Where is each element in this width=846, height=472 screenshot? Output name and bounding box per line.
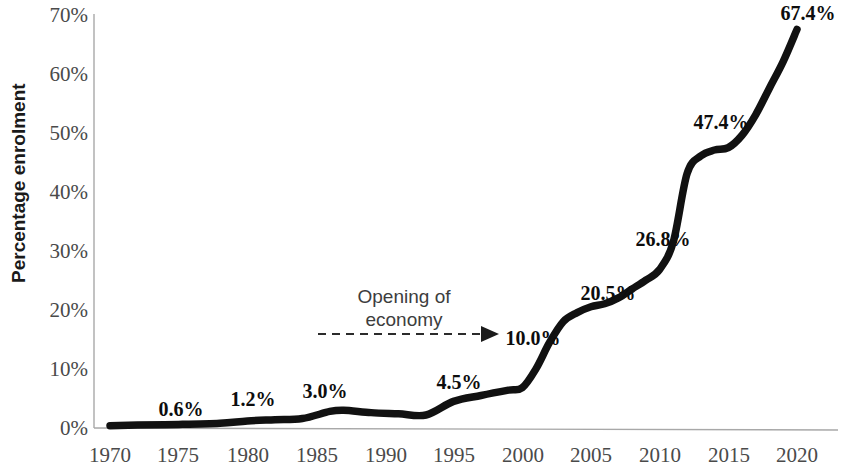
chart-container: Percentage enrolment 70% 60% 50% 40% 30%…: [0, 0, 846, 472]
data-label-3.0: 3.0%: [303, 380, 348, 402]
y-tick-20: 20%: [50, 298, 89, 322]
data-series-line: [110, 29, 797, 425]
data-point-labels: 0.6% 1.2% 3.0% 4.5% 10.0% 20.5% 26.8% 47…: [159, 2, 836, 420]
y-axis-title: Percentage enrolment: [8, 83, 29, 283]
y-tick-50: 50%: [50, 121, 89, 145]
data-label-1.2: 1.2%: [231, 388, 276, 410]
x-tick-1995: 1995: [433, 443, 475, 467]
y-axis-ticks: 70% 60% 50% 40% 30% 20% 10% 0%: [50, 3, 89, 440]
line-chart: Percentage enrolment 70% 60% 50% 40% 30%…: [0, 0, 846, 472]
y-tick-0: 0%: [60, 416, 88, 440]
x-tick-1990: 1990: [365, 443, 407, 467]
x-tick-1980: 1980: [227, 443, 269, 467]
annotation-line-2: economy: [365, 309, 443, 330]
x-tick-2020: 2020: [776, 443, 818, 467]
x-tick-1985: 1985: [296, 443, 338, 467]
annotation-arrow-head-icon: [481, 326, 499, 342]
x-tick-2000: 2000: [502, 443, 544, 467]
data-label-10.0: 10.0%: [506, 327, 561, 349]
y-tick-40: 40%: [50, 180, 89, 204]
annotation-line-1: Opening of: [358, 286, 452, 307]
x-tick-2015: 2015: [708, 443, 750, 467]
data-label-0.6: 0.6%: [159, 398, 204, 420]
y-tick-70: 70%: [50, 3, 89, 27]
x-tick-2010: 2010: [639, 443, 681, 467]
x-tick-1975: 1975: [157, 443, 199, 467]
x-tick-2005: 2005: [570, 443, 612, 467]
data-label-4.5: 4.5%: [437, 371, 482, 393]
x-axis-ticks: 1970 1975 1980 1985 1990 1995 2000 2005 …: [89, 443, 818, 467]
y-tick-30: 30%: [50, 239, 89, 263]
x-axis-line: [94, 428, 838, 430]
data-label-47.4: 47.4%: [694, 111, 749, 133]
annotation-opening-of-economy: Opening of economy: [318, 286, 499, 342]
x-tick-1970: 1970: [89, 443, 131, 467]
data-label-20.5: 20.5%: [581, 282, 636, 304]
data-label-26.8: 26.8%: [636, 228, 691, 250]
y-tick-10: 10%: [50, 357, 89, 381]
data-label-67.4: 67.4%: [781, 2, 836, 24]
y-tick-60: 60%: [50, 62, 89, 86]
